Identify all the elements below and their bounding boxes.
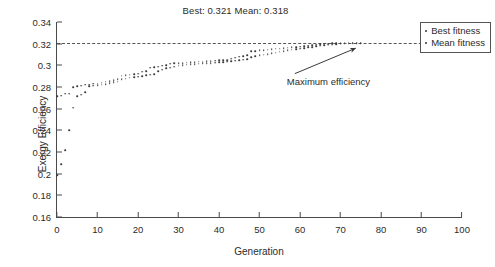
data-point — [64, 150, 66, 152]
x-axis-tick: 70 — [335, 217, 346, 235]
legend-marker-icon — [425, 30, 427, 32]
x-axis-tick: 10 — [92, 217, 103, 235]
data-point — [194, 63, 196, 65]
data-point — [214, 62, 216, 64]
data-point — [243, 59, 245, 61]
data-point — [230, 60, 232, 62]
data-point — [226, 61, 228, 63]
data-point — [295, 48, 297, 50]
data-point — [275, 52, 277, 54]
data-point — [283, 50, 285, 52]
data-point — [340, 43, 342, 45]
data-point — [97, 84, 99, 86]
legend-item-mean: Mean fitness — [424, 37, 485, 49]
data-point — [93, 85, 95, 87]
data-point — [190, 64, 192, 66]
x-axis-tick: 0 — [54, 217, 59, 235]
x-axis-tick: 60 — [295, 217, 306, 235]
data-point — [291, 49, 293, 51]
data-point — [125, 78, 127, 80]
data-point — [251, 56, 253, 58]
legend-label-mean: Mean fitness — [431, 37, 485, 49]
y-axis-tick: 0.24 — [33, 125, 58, 136]
data-point — [121, 79, 123, 81]
data-point — [319, 45, 321, 47]
x-axis-tick: 100 — [454, 217, 470, 235]
data-point — [315, 46, 317, 48]
data-point — [218, 62, 220, 64]
x-axis-label: Generation — [56, 246, 462, 257]
data-point — [210, 62, 212, 64]
data-point — [247, 58, 249, 60]
data-point — [299, 48, 301, 50]
data-point — [129, 77, 131, 79]
y-axis-tick: 0.32 — [33, 38, 58, 49]
y-axis-tick: 0.16 — [33, 212, 58, 223]
data-point — [68, 130, 70, 132]
data-point — [162, 69, 164, 71]
data-point — [60, 163, 62, 165]
data-point — [182, 65, 184, 67]
data-point — [85, 91, 87, 93]
data-point — [174, 66, 176, 68]
data-point — [222, 61, 224, 63]
chart-title-text: Best: 0.321 Mean: 0.318 — [183, 5, 289, 16]
data-point — [332, 44, 334, 46]
x-axis-tick: 80 — [376, 217, 387, 235]
data-point — [117, 81, 119, 83]
data-point — [149, 74, 151, 76]
data-point — [238, 59, 240, 61]
data-point — [344, 43, 346, 45]
y-axis-tick: 0.2 — [38, 168, 57, 179]
data-point — [186, 64, 188, 66]
data-point — [259, 55, 261, 57]
data-point — [324, 44, 326, 46]
data-point — [170, 67, 172, 69]
data-point — [352, 43, 354, 45]
x-axis-tick: 90 — [416, 217, 427, 235]
data-point — [307, 47, 309, 49]
data-point — [56, 174, 58, 176]
data-point — [105, 83, 107, 85]
chart-title: Best: 0.321 Mean: 0.318 — [0, 5, 495, 16]
data-point — [348, 43, 350, 45]
data-point — [109, 82, 111, 84]
data-point — [263, 54, 265, 56]
chart-legend: Best fitness Mean fitness — [420, 22, 491, 53]
data-point — [178, 65, 180, 67]
data-point — [81, 94, 83, 96]
data-point — [255, 55, 257, 57]
legend-marker-icon — [425, 42, 427, 44]
data-point — [234, 60, 236, 62]
data-point — [271, 53, 273, 55]
y-axis-tick: 0.34 — [33, 17, 58, 28]
legend-label-best: Best fitness — [431, 25, 480, 37]
y-axis-tick: 0.26 — [33, 103, 58, 114]
data-point — [202, 63, 204, 65]
y-axis-tick: 0.18 — [33, 190, 58, 201]
annotation-maximum-efficiency: Maximum efficiency — [287, 76, 370, 87]
data-point — [287, 50, 289, 52]
data-point — [356, 43, 358, 45]
data-point — [141, 75, 143, 77]
data-point — [157, 70, 159, 72]
data-point — [206, 62, 208, 64]
y-axis-tick: 0.3 — [38, 60, 57, 71]
x-axis-tick: 40 — [214, 217, 225, 235]
data-point — [303, 47, 305, 49]
data-point — [137, 76, 139, 78]
data-point — [336, 43, 338, 45]
data-point — [113, 82, 115, 84]
chart-figure: Best: 0.321 Mean: 0.318 Exergy Efficienc… — [0, 0, 495, 267]
data-point — [311, 46, 313, 48]
data-point — [145, 75, 147, 77]
x-axis-tick: 50 — [254, 217, 265, 235]
y-axis-tick: 0.22 — [33, 147, 58, 158]
data-point — [76, 95, 78, 97]
data-point — [133, 76, 135, 78]
x-axis-tick: 20 — [133, 217, 144, 235]
series-mean-fitness — [57, 22, 462, 217]
data-point — [279, 51, 281, 53]
legend-item-best: Best fitness — [424, 25, 485, 37]
data-point — [360, 43, 362, 45]
